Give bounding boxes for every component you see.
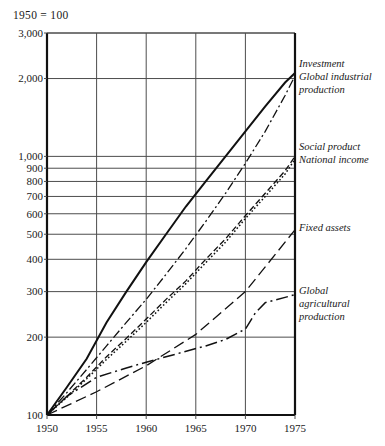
axes-group [47, 33, 295, 415]
y-axis-tick-label: 600 [27, 208, 44, 220]
chart-plot-area: 2003004005006007008009001,0002,0003,0001… [0, 0, 385, 446]
x-axis-tick-label: 1955 [86, 422, 109, 434]
x-axis-tick-label: 1965 [185, 422, 208, 434]
y-axis-tick-label: 3,000 [18, 27, 43, 39]
x-axis-ticks: 195019551960196519701975 [36, 415, 307, 434]
y-axis-tick-label: 300 [27, 285, 44, 297]
series-line-national-income [47, 159, 295, 415]
y-axis-ticks: 2003004005006007008009001,0002,0003,0001… [18, 27, 47, 421]
y-axis-tick-label: 500 [27, 228, 44, 240]
y-axis-tick-label: 1,000 [18, 150, 43, 162]
gridlines-group [47, 33, 295, 415]
y-axis-tick-label: 900 [27, 162, 44, 174]
series-line-fixed-assets [47, 230, 295, 415]
x-axis-tick-label: 1975 [284, 422, 307, 434]
series-line-social-product [47, 156, 295, 415]
chart-figure: 1950 = 100 2003004005006007008009001,000… [0, 0, 385, 446]
x-axis-tick-label: 1960 [135, 422, 158, 434]
x-axis-tick-label: 1950 [36, 422, 59, 434]
series-line-investment [47, 73, 295, 415]
y-axis-tick-label: 100 [27, 409, 44, 421]
y-axis-tick-label: 200 [27, 331, 44, 343]
chart-caption: 1950 = 100 [13, 9, 69, 21]
data-lines-group [47, 73, 295, 415]
y-axis-tick-label: 800 [27, 175, 44, 187]
y-axis-tick-label: 2,000 [18, 72, 43, 84]
series-line-global-industrial-production [47, 76, 295, 415]
y-axis-tick-label: 400 [27, 253, 44, 265]
y-axis-tick-label: 700 [27, 190, 44, 202]
x-axis-tick-label: 1970 [234, 422, 257, 434]
